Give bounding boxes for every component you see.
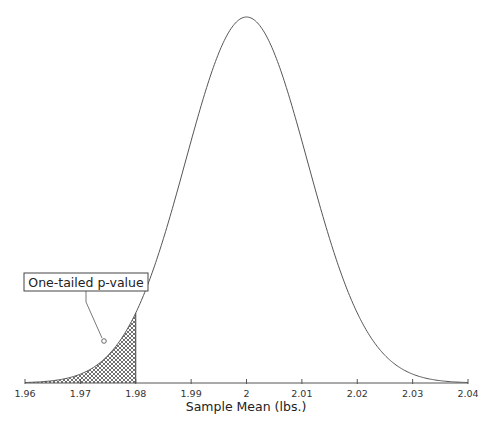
shaded-p-value-region xyxy=(25,313,136,383)
x-tick-label: 2.02 xyxy=(347,388,368,399)
density-curve xyxy=(25,17,468,383)
x-tick-label: 2.03 xyxy=(402,388,423,399)
x-tick-label: 2.04 xyxy=(457,388,478,399)
normal-distribution-chart: 1.961.971.981.9922.012.022.032.04 Sample… xyxy=(0,0,494,432)
x-tick-label: 2 xyxy=(243,388,249,399)
x-tick-label: 1.98 xyxy=(125,388,146,399)
x-tick-label: 1.97 xyxy=(70,388,91,399)
x-tick-label: 1.96 xyxy=(14,388,35,399)
annotation-label: One-tailed p-value xyxy=(28,275,144,290)
x-tick-label: 1.99 xyxy=(181,388,202,399)
annotation-pointer-icon xyxy=(102,339,107,344)
x-axis-title: Sample Mean (lbs.) xyxy=(186,399,307,414)
x-tick-label: 2.01 xyxy=(291,388,312,399)
